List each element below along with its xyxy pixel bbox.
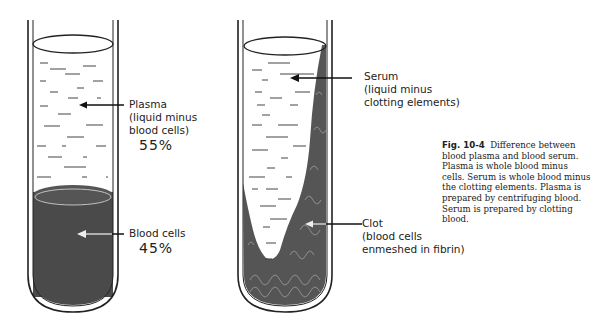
serum-tube bbox=[238, 20, 332, 312]
serum-label-group: Serum (liquid minus clotting elements) bbox=[364, 70, 460, 109]
blood-cells-percent: 45% bbox=[139, 240, 186, 256]
clot-mass bbox=[243, 45, 326, 305]
plasma-tube bbox=[28, 20, 118, 312]
blood-cells-label-group: Blood cells 45% bbox=[129, 227, 186, 256]
figure-number: Fig. 10-4 bbox=[442, 140, 485, 150]
plasma-percent: 55% bbox=[139, 137, 197, 153]
clot-desc-2: enmeshed in fibrin) bbox=[362, 243, 465, 256]
figure-caption-text: Difference between blood plasma and bloo… bbox=[442, 140, 591, 224]
plasma-desc-1: (liquid minus bbox=[129, 111, 197, 124]
clot-desc-1: (blood cells bbox=[362, 230, 465, 243]
tube-rim bbox=[244, 37, 326, 55]
plasma-desc-2: blood cells) bbox=[129, 124, 197, 137]
serum-label: Serum bbox=[364, 70, 460, 83]
figure-caption: Fig. 10-4 Difference between blood plasm… bbox=[442, 140, 592, 225]
plasma-label: Plasma bbox=[129, 98, 197, 111]
tube-rim bbox=[33, 35, 113, 53]
plasma-label-group: Plasma (liquid minus blood cells) 55% bbox=[129, 98, 197, 153]
blood-cells-label: Blood cells bbox=[129, 227, 186, 240]
serum-desc-1: (liquid minus bbox=[364, 83, 460, 96]
serum-desc-2: clotting elements) bbox=[364, 96, 460, 109]
